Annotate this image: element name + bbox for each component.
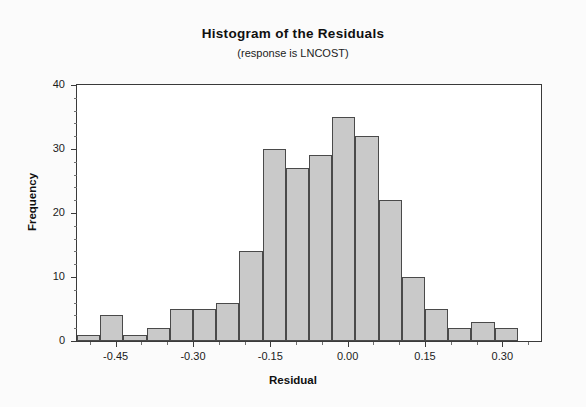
y-axis-minor-tick	[74, 175, 77, 176]
x-axis-minor-tick	[451, 342, 452, 345]
histogram-bar	[425, 309, 448, 341]
x-axis-tick-label: -0.45	[86, 350, 146, 362]
x-axis-tick-label: 0.00	[318, 350, 378, 362]
y-axis-minor-tick	[74, 111, 77, 112]
y-axis-minor-tick	[74, 187, 77, 188]
x-axis-minor-tick	[245, 342, 246, 345]
histogram-bar	[263, 149, 286, 341]
histogram-bar	[332, 117, 355, 341]
x-axis-tick	[425, 342, 426, 347]
histogram-bar	[239, 251, 262, 341]
y-axis-minor-tick	[74, 264, 77, 265]
y-axis-tick-label: 20	[31, 206, 65, 218]
x-axis-tick	[502, 342, 503, 347]
y-axis-minor-tick	[74, 239, 77, 240]
y-axis-minor-tick	[74, 303, 77, 304]
y-axis-minor-tick	[74, 290, 77, 291]
x-axis-minor-tick	[477, 342, 478, 345]
x-axis-minor-tick	[322, 342, 323, 345]
y-axis-title: Frequency	[26, 137, 38, 267]
x-axis-tick	[270, 342, 271, 347]
y-axis-minor-tick	[74, 315, 77, 316]
histogram-bar	[286, 168, 309, 341]
histogram-bar	[170, 309, 193, 341]
chart-title: Histogram of the Residuals	[0, 26, 586, 41]
chart-subtitle: (response is LNCOST)	[0, 47, 586, 59]
histogram-bar	[379, 200, 402, 341]
x-axis-tick-label: 0.15	[395, 350, 455, 362]
y-axis-minor-tick	[74, 226, 77, 227]
histogram-bar	[147, 328, 170, 341]
x-axis-tick	[193, 342, 194, 347]
y-axis-tick	[71, 85, 76, 86]
x-axis-title: Residual	[0, 374, 586, 386]
x-axis-tick	[348, 342, 349, 347]
y-axis-tick	[71, 213, 76, 214]
x-axis-minor-tick	[399, 342, 400, 345]
histogram-bars	[77, 85, 541, 341]
x-axis-tick-label: -0.15	[240, 350, 300, 362]
y-axis-tick-label: 40	[31, 78, 65, 90]
histogram-bar	[100, 315, 123, 341]
y-axis-tick-label: 0	[31, 334, 65, 346]
histogram-bar	[448, 328, 471, 341]
x-axis-minor-tick	[90, 342, 91, 345]
histogram-bar	[355, 136, 378, 341]
plot-area: 010203040 -0.45-0.30-0.150.000.150.30	[76, 84, 542, 342]
y-axis-minor-tick	[74, 328, 77, 329]
histogram-bar	[123, 335, 146, 341]
y-axis-minor-tick	[74, 251, 77, 252]
y-axis-minor-tick	[74, 136, 77, 137]
y-axis-minor-tick	[74, 162, 77, 163]
y-axis-minor-tick	[74, 123, 77, 124]
x-axis-minor-tick	[167, 342, 168, 345]
histogram-figure: Histogram of the Residuals (response is …	[0, 0, 586, 407]
histogram-bar	[471, 322, 494, 341]
y-axis-tick-label: 30	[31, 142, 65, 154]
histogram-bar	[495, 328, 518, 341]
histogram-bar	[77, 335, 100, 341]
histogram-bar	[216, 303, 239, 341]
x-axis-tick-label: 0.30	[472, 350, 532, 362]
histogram-bar	[309, 155, 332, 341]
y-axis-minor-tick	[74, 200, 77, 201]
histogram-bar	[193, 309, 216, 341]
y-axis-tick	[71, 341, 76, 342]
x-axis-tick-label: -0.30	[163, 350, 223, 362]
y-axis-tick	[71, 277, 76, 278]
y-axis-minor-tick	[74, 98, 77, 99]
x-axis-minor-tick	[528, 342, 529, 345]
x-axis-minor-tick	[373, 342, 374, 345]
y-axis-tick	[71, 149, 76, 150]
histogram-bar	[402, 277, 425, 341]
y-axis-tick-label: 10	[31, 270, 65, 282]
x-axis-tick	[116, 342, 117, 347]
x-axis-minor-tick	[219, 342, 220, 345]
x-axis-minor-tick	[141, 342, 142, 345]
x-axis-minor-tick	[296, 342, 297, 345]
